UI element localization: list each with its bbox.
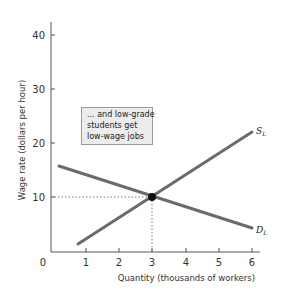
- x-ticks: [86, 248, 252, 252]
- x-tick-2: 2: [116, 257, 122, 268]
- annotation-box: ... and low-grade students get low-wage …: [81, 107, 153, 145]
- y-tick-20: 20: [32, 138, 45, 149]
- equilibrium-point: [148, 193, 156, 201]
- annotation-line-1: ... and low-grade: [87, 109, 152, 120]
- y-axis-title: Wage rate (dollars per hour): [17, 80, 27, 200]
- y-ticks: [51, 35, 55, 197]
- x-tick-6: 6: [249, 257, 255, 268]
- annotation-line-2: students get: [87, 120, 152, 131]
- labor-market-chart: 40 30 20 10 0 1 2 3 4 5 6 Quantity (thou…: [0, 0, 285, 295]
- origin-label: 0: [40, 257, 46, 268]
- y-tick-40: 40: [32, 30, 45, 41]
- demand-label: DL: [255, 225, 267, 236]
- x-tick-3: 3: [149, 257, 155, 268]
- supply-label: SL: [256, 126, 266, 137]
- x-tick-4: 4: [183, 257, 189, 268]
- x-axis-title: Quantity (thousands of workers): [118, 273, 255, 283]
- y-tick-10: 10: [32, 192, 45, 203]
- supply-curve: [78, 132, 252, 244]
- x-tick-1: 1: [83, 257, 89, 268]
- annotation-line-3: low-wage jobs: [87, 131, 152, 142]
- y-tick-30: 30: [32, 84, 45, 95]
- x-tick-5: 5: [216, 257, 222, 268]
